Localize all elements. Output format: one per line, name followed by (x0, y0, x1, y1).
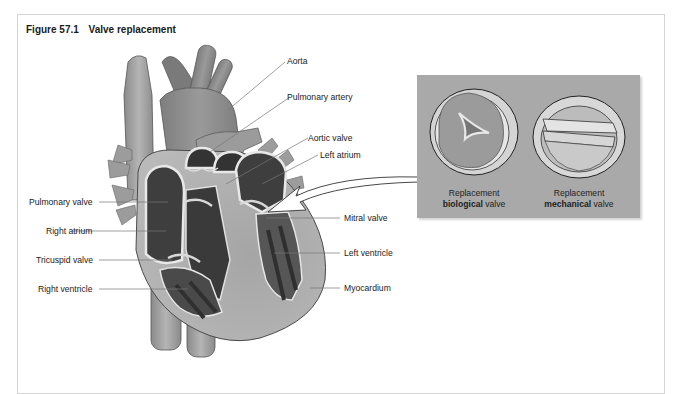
label-aortic-valve: Aortic valve (308, 133, 352, 143)
caption-bold-word: biological (443, 199, 483, 209)
label-left-atrium: Left atrium (320, 150, 361, 160)
caption-biological-valve: Replacement biological valve (424, 188, 524, 210)
label-myocardium: Myocardium (344, 283, 391, 293)
right-atrium-chamber (146, 166, 184, 263)
label-tricuspid-valve: Tricuspid valve (36, 255, 93, 265)
caption-rest: valve (591, 199, 613, 209)
caption-mechanical-valve: Replacement mechanical valve (529, 188, 629, 210)
caption-line1: Replacement (554, 188, 605, 198)
label-right-ventricle: Right ventricle (38, 284, 92, 294)
label-left-ventricle: Left ventricle (344, 248, 393, 258)
caption-rest: valve (483, 199, 505, 209)
label-pulmonary-artery: Pulmonary artery (287, 92, 352, 102)
replacement-valves-inset: Replacement biological valve Replacement… (417, 75, 640, 218)
label-pulmonary-valve: Pulmonary valve (29, 197, 93, 207)
biological-valve-icon (430, 89, 518, 175)
label-right-atrium: Right atrium (46, 226, 92, 236)
mechanical-valve-icon (533, 96, 625, 178)
label-aorta: Aorta (287, 56, 308, 66)
caption-bold-word: mechanical (544, 199, 591, 209)
label-mitral-valve: Mitral valve (344, 213, 387, 223)
caption-line1: Replacement (449, 188, 500, 198)
